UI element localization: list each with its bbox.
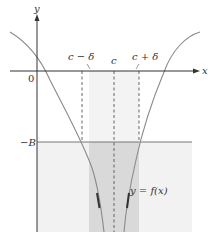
neg-B-label: −B (20, 137, 36, 148)
limit-diagram: y x 0 c − δ c c + δ −B y = f(x) (0, 0, 212, 248)
c-label: c (111, 55, 117, 66)
c-plus-delta-label: c + δ (132, 51, 158, 62)
y-axis-arrow-icon (35, 14, 40, 21)
c-minus-delta-leader (87, 64, 90, 69)
x-axis-arrow-icon (193, 69, 200, 74)
x-axis-label: x (202, 65, 208, 76)
y-axis-label: y (33, 3, 40, 14)
c-minus-delta-label: c − δ (68, 51, 94, 62)
c-plus-delta-leader (136, 64, 139, 69)
origin-label: 0 (28, 73, 34, 84)
curve-label: y = f(x) (129, 185, 168, 196)
